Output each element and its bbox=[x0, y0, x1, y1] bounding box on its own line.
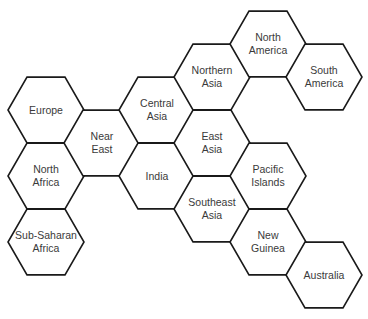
hex-label-line: Europe bbox=[6, 104, 86, 117]
hex-label-near-east: NearEast bbox=[62, 130, 142, 156]
hex-label-line: North bbox=[6, 163, 86, 176]
hex-label-line: Northern bbox=[172, 64, 252, 77]
hex-label-line: Asia bbox=[172, 209, 252, 222]
hex-label-line: Africa bbox=[6, 176, 86, 189]
hex-label-india: India bbox=[117, 170, 197, 183]
hex-label-line: South bbox=[284, 64, 364, 77]
hex-label-line: Central bbox=[117, 97, 197, 110]
hex-label-line: Australia bbox=[284, 269, 364, 282]
hex-label-pacific-islands: PacificIslands bbox=[228, 163, 308, 189]
hex-label-south-america: SouthAmerica bbox=[284, 64, 364, 90]
hex-label-north-africa: NorthAfrica bbox=[6, 163, 86, 189]
hex-label-north-america: NorthAmerica bbox=[228, 31, 308, 57]
hex-label-sub-saharan-africa: Sub-SaharanAfrica bbox=[6, 229, 86, 255]
hex-label-line: Asia bbox=[172, 77, 252, 90]
hex-label-line: East bbox=[172, 130, 252, 143]
hex-label-line: America bbox=[228, 44, 308, 57]
hex-label-line: America bbox=[284, 77, 364, 90]
hex-label-line: Islands bbox=[228, 176, 308, 189]
hex-label-line: Asia bbox=[117, 110, 197, 123]
hex-label-line: North bbox=[228, 31, 308, 44]
hex-label-line: Near bbox=[62, 130, 142, 143]
hex-label-new-guinea: NewGuinea bbox=[228, 229, 308, 255]
hex-label-east-asia: EastAsia bbox=[172, 130, 252, 156]
hex-label-line: Pacific bbox=[228, 163, 308, 176]
hex-label-line: India bbox=[117, 170, 197, 183]
hex-label-line: New bbox=[228, 229, 308, 242]
hex-label-southeast-asia: SoutheastAsia bbox=[172, 196, 252, 222]
hex-label-line: Africa bbox=[6, 242, 86, 255]
hex-label-central-asia: CentralAsia bbox=[117, 97, 197, 123]
hex-label-europe: Europe bbox=[6, 104, 86, 117]
hex-label-australia: Australia bbox=[284, 269, 364, 282]
hex-label-line: Southeast bbox=[172, 196, 252, 209]
hex-label-line: East bbox=[62, 143, 142, 156]
hex-label-northern-asia: NorthernAsia bbox=[172, 64, 252, 90]
hex-label-line: Asia bbox=[172, 143, 252, 156]
hex-label-line: Guinea bbox=[228, 242, 308, 255]
hex-label-line: Sub-Saharan bbox=[6, 229, 86, 242]
